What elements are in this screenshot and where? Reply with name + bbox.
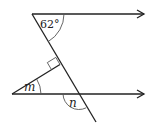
geometry-diagram: 62° m n xyxy=(0,0,151,134)
angle-n-label: n xyxy=(69,96,77,110)
angle-m-label: m xyxy=(24,80,35,94)
angle-62-label: 62° xyxy=(40,18,60,31)
perpendicular-segment xyxy=(12,65,60,95)
angle-m-arc xyxy=(37,79,41,94)
